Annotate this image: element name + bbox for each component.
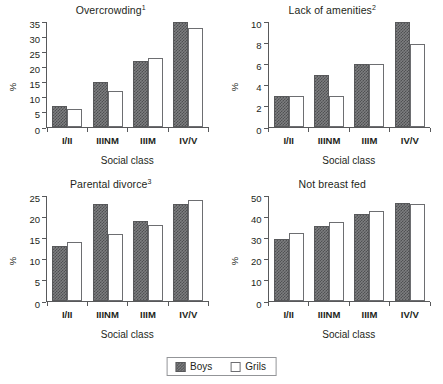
bar-group xyxy=(269,22,309,127)
x-axis-tick-label: IV/V xyxy=(390,309,430,320)
y-axis-tick-label: 10 xyxy=(251,277,262,288)
y-axis-tick-label: 0 xyxy=(35,125,40,136)
y-axis-tick-label: 8 xyxy=(256,40,261,51)
y-axis-tick-label: 25 xyxy=(29,193,40,204)
x-axis-label: Social class xyxy=(268,329,431,340)
bar-boys xyxy=(93,204,108,301)
y-axis-tick-mark xyxy=(264,302,268,303)
bars-layer xyxy=(269,22,431,127)
bar-boys xyxy=(173,204,188,301)
panel-title-superscript: 1 xyxy=(142,4,146,11)
y-axis-tick-label: 30 xyxy=(251,235,262,246)
y-axis-tick-mark xyxy=(42,112,46,113)
legend-item-girls: Grils xyxy=(230,361,266,372)
y-axis-tick-mark xyxy=(264,106,268,107)
bars-layer xyxy=(47,196,209,301)
x-axis-tick-mark xyxy=(349,128,389,132)
y-axis-tick-mark xyxy=(42,217,46,218)
y-axis-tick-mark xyxy=(42,67,46,68)
panel-grid: Overcrowding1%Social class05101520253035… xyxy=(0,0,443,348)
plot-area: 01020304050I/IIIIINMIIIMIV/V xyxy=(268,196,431,302)
x-axis-tick-mark xyxy=(269,302,309,306)
chart-panel: Lack of amenities2%Social class0246810I/… xyxy=(222,0,443,174)
y-axis-tick-mark xyxy=(42,37,46,38)
chart-legend: Boys Grils xyxy=(166,357,277,376)
bar-boys xyxy=(314,75,329,128)
bar-boys xyxy=(133,221,148,301)
panel-title: Not breast fed xyxy=(222,178,443,190)
x-axis-tick-label: I/II xyxy=(47,309,87,320)
y-axis-tick-label: 0 xyxy=(35,299,40,310)
y-axis-tick-label: 20 xyxy=(29,214,40,225)
x-axis-tick-label: IIIM xyxy=(128,309,168,320)
bar-group xyxy=(87,196,127,301)
bar-boys xyxy=(173,22,188,127)
x-axis-tick-mark xyxy=(47,128,87,132)
y-axis-label: % xyxy=(7,83,18,91)
bar-girls xyxy=(188,200,203,301)
x-axis-tick-labels: I/IIIIINMIIIMIV/V xyxy=(47,309,209,320)
bar-boys xyxy=(133,61,148,127)
y-axis-label: % xyxy=(7,257,18,265)
y-axis-tick-mark xyxy=(42,22,46,23)
x-axis-tick-label: I/II xyxy=(269,309,309,320)
bar-boys xyxy=(314,226,329,301)
y-axis-tick-mark xyxy=(264,238,268,239)
y-axis-tick-label: 50 xyxy=(251,193,262,204)
x-axis-tick-marks xyxy=(47,128,209,132)
legend-item-boys: Boys xyxy=(175,361,212,372)
legend-label-girls: Grils xyxy=(245,361,266,372)
bar-boys xyxy=(93,82,108,127)
y-axis-tick-label: 15 xyxy=(29,235,40,246)
bars-layer xyxy=(47,22,209,127)
x-axis-tick-label: IIIM xyxy=(128,135,168,146)
x-axis-tick-label: I/II xyxy=(47,135,87,146)
y-axis-tick-mark xyxy=(264,217,268,218)
bar-girls xyxy=(67,109,82,127)
y-axis-tick-label: 0 xyxy=(256,299,261,310)
bar-group xyxy=(168,22,208,127)
y-axis-tick-label: 0 xyxy=(256,125,261,136)
y-axis-tick-label: 40 xyxy=(251,214,262,225)
chart-panel: Overcrowding1%Social class05101520253035… xyxy=(0,0,222,174)
bar-girls xyxy=(289,233,304,301)
bar-girls xyxy=(369,211,384,301)
bar-group xyxy=(47,22,87,127)
y-axis-tick-label: 10 xyxy=(29,94,40,105)
bar-girls xyxy=(108,91,123,127)
bar-boys xyxy=(52,246,67,301)
bar-girls xyxy=(188,28,203,127)
panel-title-superscript: 2 xyxy=(372,4,376,11)
x-axis-tick-mark xyxy=(390,128,430,132)
y-axis-tick-label: 10 xyxy=(29,256,40,267)
x-axis-tick-label: IV/V xyxy=(168,135,208,146)
y-axis-label: % xyxy=(228,83,239,91)
bar-group xyxy=(87,22,127,127)
bar-boys xyxy=(395,22,410,127)
legend-swatch-boys-icon xyxy=(175,362,185,372)
y-axis-tick-label: 6 xyxy=(256,61,261,72)
x-axis-tick-mark xyxy=(87,302,127,306)
x-axis-tick-labels: I/IIIIINMIIIMIV/V xyxy=(269,135,431,146)
legend-label-boys: Boys xyxy=(190,361,212,372)
x-axis-tick-label: I/II xyxy=(269,135,309,146)
y-axis-tick-label: 20 xyxy=(251,256,262,267)
bar-group xyxy=(128,196,168,301)
x-axis-tick-marks xyxy=(269,128,431,132)
y-axis-tick-mark xyxy=(264,196,268,197)
bar-girls xyxy=(329,96,344,128)
y-axis-tick-mark xyxy=(42,128,46,129)
y-axis-tick-mark xyxy=(42,280,46,281)
y-axis-tick-mark xyxy=(42,97,46,98)
panel-title: Lack of amenities2 xyxy=(222,4,443,16)
chart-panel: Not breast fed%Social class01020304050I/… xyxy=(222,174,443,348)
multi-panel-bar-chart-figure: Overcrowding1%Social class05101520253035… xyxy=(0,0,443,384)
x-axis-tick-label: IIINM xyxy=(309,309,349,320)
y-axis-tick-mark xyxy=(42,259,46,260)
bars-layer xyxy=(269,196,431,301)
bar-girls xyxy=(67,242,82,301)
panel-title: Parental divorce3 xyxy=(0,178,222,190)
bar-group xyxy=(168,196,208,301)
bar-girls xyxy=(410,204,425,301)
y-axis-tick-mark xyxy=(264,128,268,129)
